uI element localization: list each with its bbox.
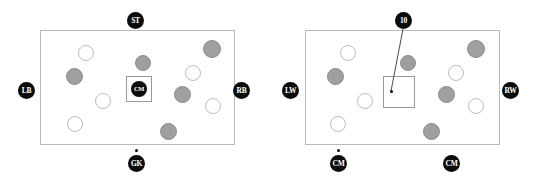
badge-st-label: ST — [131, 17, 140, 25]
player-dark-4[interactable] — [438, 86, 455, 103]
player-light-4[interactable] — [468, 98, 484, 114]
badge-lb-label: LB — [22, 87, 31, 95]
badge-st[interactable]: ST — [127, 12, 144, 29]
badge-cm-right[interactable]: CM — [443, 155, 460, 172]
badge-rw[interactable]: RW — [502, 82, 519, 99]
badge-cm-left[interactable]: CM — [330, 155, 347, 172]
player-dark-3[interactable] — [467, 40, 485, 58]
player-dark-2[interactable] — [135, 55, 151, 71]
player-light-5[interactable] — [67, 116, 83, 132]
badge-cm-right-label: CM — [446, 160, 458, 168]
player-dark-3[interactable] — [203, 40, 221, 58]
player-light-5[interactable] — [330, 116, 346, 132]
player-dark-1[interactable] — [327, 68, 344, 85]
left-panel: STLBRBGKCM — [0, 0, 270, 180]
diagram-root: STLBRBGKCM10LWRWCMCM — [0, 0, 540, 180]
badge-lw-label: LW — [285, 87, 296, 95]
badge-lb[interactable]: LB — [18, 82, 35, 99]
badge-cm-center-label: CM — [134, 86, 144, 93]
badge-gk-label: GK — [131, 160, 142, 168]
badge-cm-left-label: CM — [333, 160, 345, 168]
badge-rw-label: RW — [504, 87, 516, 95]
badge-10-label: 10 — [400, 17, 407, 25]
player-light-3[interactable] — [357, 93, 373, 109]
player-dark-4[interactable] — [174, 86, 191, 103]
badge-cm-center[interactable]: CM — [131, 81, 147, 97]
anchor-dot-ten — [390, 90, 393, 93]
player-light-1[interactable] — [78, 45, 94, 61]
player-dark-5[interactable] — [160, 123, 177, 140]
player-light-4[interactable] — [205, 98, 221, 114]
anchor-dot-gk — [135, 149, 138, 152]
player-light-3[interactable] — [95, 93, 111, 109]
player-dark-1[interactable] — [66, 68, 83, 85]
player-dark-2[interactable] — [400, 55, 416, 71]
badge-gk[interactable]: GK — [128, 155, 145, 172]
anchor-dot-cm-left — [337, 149, 340, 152]
player-light-2[interactable] — [448, 65, 464, 81]
badge-rb[interactable]: RB — [233, 82, 250, 99]
right-panel: 10LWRWCMCM — [270, 0, 540, 180]
player-light-1[interactable] — [340, 45, 356, 61]
badge-10[interactable]: 10 — [395, 12, 412, 29]
badge-rb-label: RB — [237, 87, 247, 95]
player-light-2[interactable] — [185, 65, 201, 81]
badge-lw[interactable]: LW — [282, 82, 299, 99]
player-dark-5[interactable] — [423, 123, 440, 140]
focus-box[interactable] — [383, 76, 415, 108]
